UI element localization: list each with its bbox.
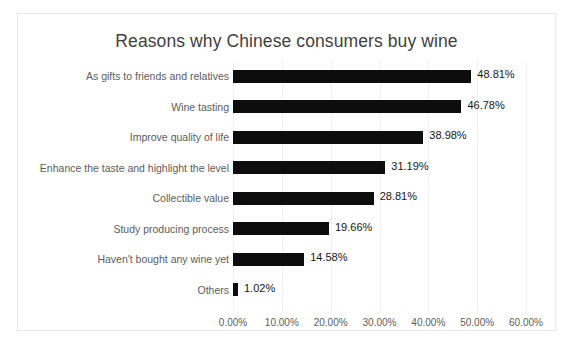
- bar-row: 14.58%: [233, 244, 526, 275]
- x-tick-label: 20.00%: [314, 317, 348, 328]
- bar-value-label: 1.02%: [244, 282, 275, 295]
- bar-3: [233, 131, 423, 144]
- bar-5: [233, 192, 374, 205]
- bar-value-label: 46.78%: [467, 99, 504, 112]
- bar-value-label: 31.19%: [391, 160, 428, 173]
- category-label-row: Wine tasting: [18, 92, 229, 123]
- category-label-row: Others: [18, 275, 229, 306]
- gridline-6000: [526, 61, 527, 313]
- category-label-row: Enhance the taste and highlight the leve…: [18, 153, 229, 184]
- category-label-row: Haven't bought any wine yet: [18, 244, 229, 275]
- bar-row: 31.19%: [233, 153, 526, 184]
- bar-6: [233, 222, 329, 235]
- category-label-row: Improve quality of life: [18, 122, 229, 153]
- category-label: Others: [197, 284, 229, 296]
- x-axis: 0.00%10.00%20.00%30.00%40.00%50.00%60.00…: [233, 313, 526, 333]
- bar-1: [233, 70, 471, 83]
- bar-row: 28.81%: [233, 183, 526, 214]
- category-label: Wine tasting: [171, 101, 229, 113]
- category-label: Study producing process: [113, 223, 229, 235]
- category-label: Improve quality of life: [130, 131, 229, 143]
- bar-row: 1.02%: [233, 275, 526, 306]
- bar-value-label: 28.81%: [380, 190, 417, 203]
- bar-8: [233, 283, 238, 296]
- x-tick-label: 10.00%: [265, 317, 299, 328]
- x-tick-label: 50.00%: [460, 317, 494, 328]
- chart-page: Reasons why Chinese consumers buy wine A…: [0, 0, 572, 344]
- bar-value-label: 48.81%: [477, 68, 514, 81]
- category-label-row: Study producing process: [18, 214, 229, 245]
- x-tick-label: 60.00%: [509, 317, 543, 328]
- bar-row: 38.98%: [233, 122, 526, 153]
- bar-7: [233, 253, 304, 266]
- bar-value-label: 14.58%: [310, 251, 347, 264]
- category-label: Collectible value: [153, 192, 229, 204]
- chart-title: Reasons why Chinese consumers buy wine: [18, 31, 555, 52]
- category-label-row: As gifts to friends and relatives: [18, 61, 229, 92]
- bar-row: 48.81%: [233, 61, 526, 92]
- x-tick-label: 40.00%: [411, 317, 445, 328]
- bar-4: [233, 161, 385, 174]
- chart-frame: Reasons why Chinese consumers buy wine A…: [17, 13, 556, 331]
- bar-value-label: 19.66%: [335, 221, 372, 234]
- bar-row: 19.66%: [233, 214, 526, 245]
- category-label-row: Collectible value: [18, 183, 229, 214]
- category-label: As gifts to friends and relatives: [86, 70, 229, 82]
- bar-2: [233, 100, 461, 113]
- bar-row: 46.78%: [233, 92, 526, 123]
- category-label: Haven't bought any wine yet: [97, 253, 229, 265]
- bar-value-label: 38.98%: [429, 129, 466, 142]
- plot-area: 48.81%46.78%38.98%31.19%28.81%19.66%14.5…: [233, 61, 526, 313]
- category-axis: As gifts to friends and relativesWine ta…: [18, 61, 229, 313]
- x-tick-label: 0.00%: [219, 317, 247, 328]
- category-label: Enhance the taste and highlight the leve…: [40, 162, 229, 174]
- x-tick-label: 30.00%: [363, 317, 397, 328]
